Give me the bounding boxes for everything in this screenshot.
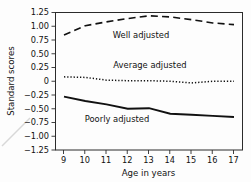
y-tick-label: −0.75 xyxy=(24,117,49,127)
y-tick-label: −0.25 xyxy=(24,90,49,100)
y-tick-label: −0.50 xyxy=(24,104,49,114)
y-tick-label: 1.00 xyxy=(31,21,49,31)
x-tick-label: 13 xyxy=(143,155,153,165)
x-tick-label: 16 xyxy=(207,155,217,165)
chart-figure: 1.25 1.00 0.75 0.50 0.25 0 −0.25 −0.50 −… xyxy=(0,0,251,182)
x-tick-label: 10 xyxy=(80,155,90,165)
y-tick-label: −1.25 xyxy=(24,145,49,155)
y-tick-label: 0.50 xyxy=(31,49,49,59)
series-label-poorly-adjusted: Poorly adjusted xyxy=(85,114,150,124)
y-tick-label: −1.00 xyxy=(24,131,49,141)
y-tick-label: 0.75 xyxy=(31,35,49,45)
y-tick-label: 1.25 xyxy=(31,7,49,17)
y-axis-ticks xyxy=(52,13,56,151)
x-axis-ticks xyxy=(64,150,234,154)
series-average-adjusted xyxy=(64,77,234,83)
x-tick-label: 15 xyxy=(186,155,196,165)
x-tick-label: 12 xyxy=(122,155,132,165)
y-tick-label: 0 xyxy=(44,76,49,86)
x-tick-label: 11 xyxy=(101,155,111,165)
line-chart: 1.25 1.00 0.75 0.50 0.25 0 −0.25 −0.50 −… xyxy=(0,0,251,182)
y-tick-label: 0.25 xyxy=(31,62,49,72)
x-axis-tick-labels: 9 10 11 12 13 14 15 16 17 xyxy=(61,155,239,165)
series-label-well-adjusted: Well adjusted xyxy=(113,30,169,40)
x-axis-title: Age in years xyxy=(122,168,176,178)
x-tick-label: 17 xyxy=(228,155,238,165)
y-axis-title: Standard scores xyxy=(6,46,16,116)
x-tick-label: 9 xyxy=(61,155,66,165)
y-axis-tick-labels: 1.25 1.00 0.75 0.50 0.25 0 −0.25 −0.50 −… xyxy=(24,7,49,155)
series-label-average-adjusted: Average adjusted xyxy=(113,60,186,70)
x-tick-label: 14 xyxy=(165,155,175,165)
